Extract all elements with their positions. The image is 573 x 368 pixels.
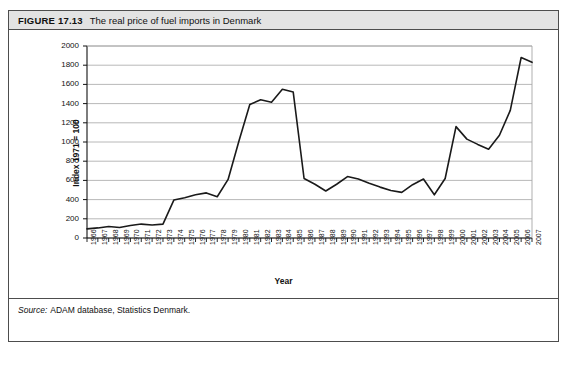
x-axis-tick-1993: 1993 <box>383 229 390 245</box>
y-axis-tick-1400: 1400 <box>45 99 79 108</box>
x-axis-tick-1971: 1971 <box>144 229 151 245</box>
x-axis-tick-1977: 1977 <box>209 229 216 245</box>
plot-wrapper: Index 1971 = 100 Year 020040060080010001… <box>9 30 558 298</box>
x-axis-tick-1968: 1968 <box>112 229 119 245</box>
y-axis-tick-1000: 1000 <box>45 137 79 146</box>
figure-number: FIGURE 17.13 <box>18 15 83 26</box>
x-axis-tick-1999: 1999 <box>448 229 455 245</box>
x-axis-tick-1967: 1967 <box>101 229 108 245</box>
x-axis-tick-1973: 1973 <box>166 229 173 245</box>
x-axis-tick-1979: 1979 <box>231 229 238 245</box>
y-axis-tick-600: 600 <box>45 175 79 184</box>
x-axis-tick-2005: 2005 <box>513 229 520 245</box>
y-axis-tick-800: 800 <box>45 156 79 165</box>
x-axis-tick-2004: 2004 <box>502 229 509 245</box>
x-axis-tick-1997: 1997 <box>426 229 433 245</box>
x-axis-tick-2007: 2007 <box>535 229 542 245</box>
y-axis-tick-400: 400 <box>45 195 79 204</box>
x-axis-tick-1998: 1998 <box>437 229 444 245</box>
y-axis-tick-0: 0 <box>45 233 79 242</box>
x-axis-tick-2001: 2001 <box>470 229 477 245</box>
x-axis-tick-1980: 1980 <box>242 229 249 245</box>
figure-container: FIGURE 17.13 The real price of fuel impo… <box>8 10 559 342</box>
x-axis-tick-1970: 1970 <box>133 229 140 245</box>
x-axis-tick-2006: 2006 <box>524 229 531 245</box>
x-axis-tick-1989: 1989 <box>340 229 347 245</box>
x-axis-tick-1987: 1987 <box>318 229 325 245</box>
x-axis-tick-2003: 2003 <box>492 229 499 245</box>
x-axis-tick-1986: 1986 <box>307 229 314 245</box>
x-axis-tick-1983: 1983 <box>275 229 282 245</box>
y-axis-tick-1800: 1800 <box>45 60 79 69</box>
x-axis-tick-1974: 1974 <box>177 229 184 245</box>
y-axis-tick-1200: 1200 <box>45 118 79 127</box>
y-axis-tick-2000: 2000 <box>45 41 79 50</box>
y-axis-tick-200: 200 <box>45 214 79 223</box>
x-axis-tick-1978: 1978 <box>220 229 227 245</box>
x-axis-tick-1988: 1988 <box>329 229 336 245</box>
x-axis-tick-1966: 1966 <box>90 229 97 245</box>
source-text: ADAM database, Statistics Denmark. <box>50 305 190 315</box>
figure-footer: Source: ADAM database, Statistics Denmar… <box>9 298 558 320</box>
x-axis-tick-1984: 1984 <box>285 229 292 245</box>
x-axis-tick-1991: 1991 <box>361 229 368 245</box>
x-axis-tick-2000: 2000 <box>459 229 466 245</box>
x-axis-tick-1992: 1992 <box>372 229 379 245</box>
x-axis-tick-1995: 1995 <box>405 229 412 245</box>
x-axis-tick-1972: 1972 <box>155 229 162 245</box>
y-axis-tick-1600: 1600 <box>45 79 79 88</box>
x-axis-tick-1994: 1994 <box>394 229 401 245</box>
x-axis-tick-1982: 1982 <box>264 229 271 245</box>
x-axis-tick-1981: 1981 <box>253 229 260 245</box>
chart-area: Index 1971 = 100 Year 020040060080010001… <box>9 30 558 298</box>
x-axis-tick-2002: 2002 <box>481 229 488 245</box>
figure-title: The real price of fuel imports in Denmar… <box>90 15 262 26</box>
x-axis-tick-1975: 1975 <box>188 229 195 245</box>
line-chart <box>9 30 560 298</box>
x-axis-tick-1990: 1990 <box>350 229 357 245</box>
x-axis-tick-1996: 1996 <box>416 229 423 245</box>
x-axis-tick-1969: 1969 <box>123 229 130 245</box>
x-axis-tick-1985: 1985 <box>296 229 303 245</box>
x-axis-tick-1976: 1976 <box>199 229 206 245</box>
source-label: Source: <box>18 305 47 315</box>
figure-header: FIGURE 17.13 The real price of fuel impo… <box>9 11 558 30</box>
